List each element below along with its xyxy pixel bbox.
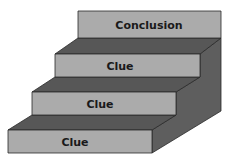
staircase-diagram: Conclusion Clue Clue Clue bbox=[0, 0, 235, 162]
step-label-clue: Clue bbox=[86, 98, 113, 111]
step-label-conclusion: Conclusion bbox=[115, 19, 182, 32]
tread-top bbox=[55, 38, 221, 54]
tread-bottom bbox=[8, 115, 176, 130]
step-label-clue: Clue bbox=[61, 136, 88, 149]
tread-middle bbox=[32, 77, 200, 92]
step-label-clue: Clue bbox=[106, 60, 133, 73]
